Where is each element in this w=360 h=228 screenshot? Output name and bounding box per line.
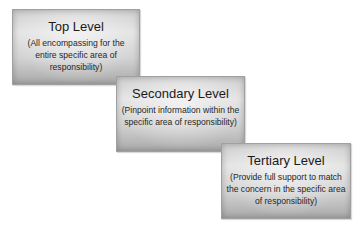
top-level-title: Top Level [13, 19, 139, 34]
top-level-description: (All encompassing for the entire specifi… [13, 37, 139, 73]
tertiary-level-title: Tertiary Level [222, 153, 350, 168]
secondary-level-box: Secondary Level (Pinpoint information wi… [116, 76, 245, 152]
top-level-box: Top Level (All encompassing for the enti… [12, 9, 140, 85]
secondary-level-description: (Pinpoint information within the specifi… [117, 104, 244, 128]
secondary-level-title: Secondary Level [117, 86, 244, 101]
tertiary-level-description: (Provide full support to match the conce… [222, 171, 350, 207]
tertiary-level-box: Tertiary Level (Provide full support to … [221, 143, 351, 219]
